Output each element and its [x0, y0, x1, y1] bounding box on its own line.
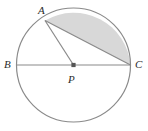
circle-diagram-canvas	[0, 0, 148, 131]
point-label-a: A	[38, 5, 45, 16]
geometry-figure: A B P C	[0, 0, 148, 131]
point-label-p: P	[68, 74, 75, 85]
point-label-b: B	[4, 59, 11, 70]
shaded-circular-segment	[45, 13, 131, 65]
center-point-marker	[71, 63, 75, 67]
point-label-c: C	[135, 59, 142, 70]
